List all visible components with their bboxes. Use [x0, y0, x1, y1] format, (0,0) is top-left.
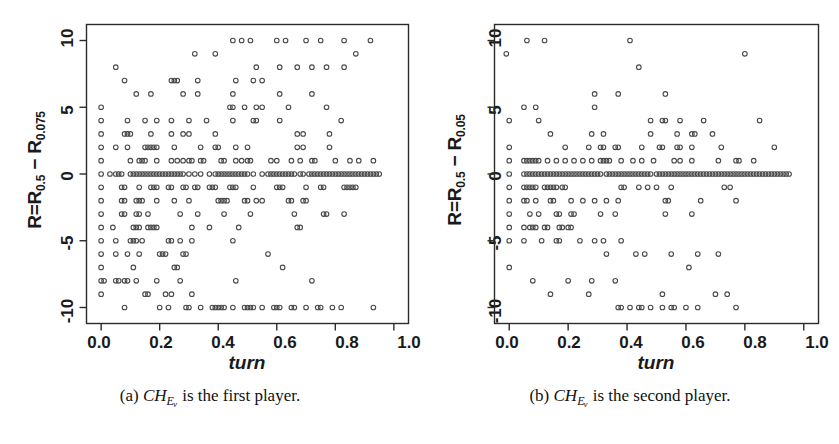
data-point: [231, 38, 236, 43]
data-point: [321, 185, 326, 190]
data-point: [525, 198, 530, 203]
data-point: [289, 158, 294, 163]
data-point: [134, 238, 139, 243]
data-point: [274, 158, 279, 163]
data-point: [654, 185, 659, 190]
data-point: [637, 65, 642, 70]
data-point: [289, 198, 294, 203]
data-point: [725, 292, 730, 297]
data-point: [356, 158, 361, 163]
data-point: [207, 172, 212, 177]
data-point: [787, 172, 792, 177]
data-point: [342, 212, 347, 217]
data-point: [716, 252, 721, 257]
data-point: [548, 292, 553, 297]
data-point: [507, 185, 512, 190]
data-point: [245, 198, 250, 203]
data-point: [377, 172, 382, 177]
data-point: [598, 172, 603, 177]
data-point: [99, 198, 104, 203]
data-point: [128, 132, 133, 137]
data-point: [339, 305, 344, 310]
data-point: [772, 145, 777, 150]
data-point: [533, 225, 538, 230]
data-point: [298, 225, 303, 230]
data-point: [140, 238, 145, 243]
data-point: [687, 265, 692, 270]
caption-a-index: (a): [120, 386, 139, 405]
data-point: [190, 238, 195, 243]
data-point: [301, 132, 306, 137]
data-point: [134, 278, 139, 283]
data-point: [277, 92, 282, 97]
data-point: [233, 145, 238, 150]
data-point: [131, 265, 136, 270]
data-point: [592, 198, 597, 203]
data-point: [601, 238, 606, 243]
data-point: [207, 225, 212, 230]
data-point: [111, 225, 116, 230]
data-point: [592, 238, 597, 243]
data-point: [231, 238, 236, 243]
data-point: [713, 292, 718, 297]
data-point: [310, 92, 315, 97]
data-point: [143, 158, 148, 163]
data-point: [678, 118, 683, 123]
data-point: [195, 78, 200, 83]
x-tick-label-a-1: 0.2: [141, 333, 181, 353]
data-point: [678, 145, 683, 150]
data-point: [292, 172, 297, 177]
data-point: [231, 118, 236, 123]
caption-b: (b) CHEv is the second player.: [440, 386, 820, 406]
data-point: [248, 38, 253, 43]
data-point: [607, 158, 612, 163]
x-axis-label-b: turn: [576, 352, 736, 374]
data-point: [128, 158, 133, 163]
data-point: [149, 92, 154, 97]
data-point: [651, 158, 656, 163]
data-point: [99, 252, 104, 257]
data-point: [663, 212, 668, 217]
data-point: [254, 65, 259, 70]
data-point: [277, 305, 282, 310]
data-point: [236, 225, 241, 230]
data-point: [154, 198, 159, 203]
data-point: [178, 238, 183, 243]
data-point: [169, 185, 174, 190]
data-point: [222, 305, 227, 310]
data-point: [533, 105, 538, 110]
data-point: [140, 198, 145, 203]
data-point: [589, 132, 594, 137]
data-point: [663, 92, 668, 97]
data-point: [260, 172, 265, 177]
data-point: [698, 198, 703, 203]
data-point: [557, 212, 562, 217]
data-point: [324, 65, 329, 70]
data-point: [690, 145, 695, 150]
data-point: [222, 212, 227, 217]
data-point: [233, 185, 238, 190]
data-point: [277, 65, 282, 70]
data-point: [666, 198, 671, 203]
data-point: [251, 305, 256, 310]
data-point: [254, 118, 259, 123]
data-point: [122, 198, 127, 203]
data-point: [507, 172, 512, 177]
data-point: [701, 118, 706, 123]
data-point: [637, 185, 642, 190]
data-point: [728, 185, 733, 190]
data-point: [551, 198, 556, 203]
data-point: [125, 252, 130, 257]
data-point: [507, 238, 512, 243]
data-point: [569, 225, 574, 230]
data-point: [178, 278, 183, 283]
data-point: [260, 78, 265, 83]
data-point: [572, 158, 577, 163]
data-point: [195, 92, 200, 97]
data-point: [266, 252, 271, 257]
data-point: [324, 212, 329, 217]
data-point: [628, 305, 633, 310]
data-point: [604, 252, 609, 257]
data-point: [722, 185, 727, 190]
data-point: [642, 252, 647, 257]
